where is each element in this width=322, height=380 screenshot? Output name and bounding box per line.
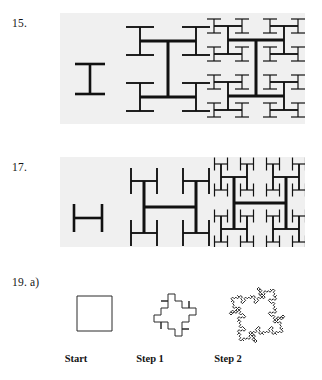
caption-start: Start <box>36 354 116 365</box>
h-tree-fractal-rotated-figure <box>60 157 305 247</box>
problem-number-19: 19. a) <box>12 277 39 289</box>
textbook-page: 15. 17. 19. a) Start Step 1 Step 2 <box>0 0 322 380</box>
quadratic-koch-island-figure <box>55 282 310 352</box>
caption-step-2: Step 2 <box>188 354 268 365</box>
problem-number-17: 17. <box>12 162 27 174</box>
caption-step-1: Step 1 <box>110 354 190 365</box>
problem-number-15: 15. <box>12 18 27 30</box>
h-tree-fractal-vertical-figure <box>60 13 305 124</box>
